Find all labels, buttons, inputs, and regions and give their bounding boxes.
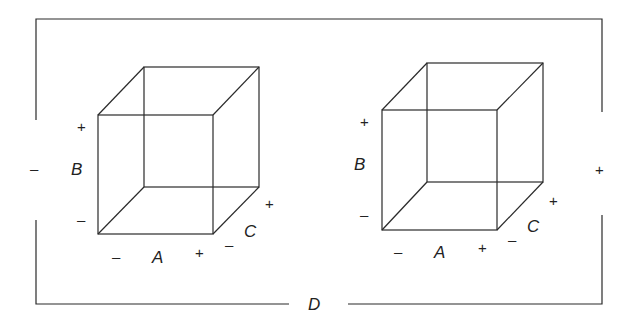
right-c-high-sign: + bbox=[549, 192, 558, 209]
cube-right bbox=[382, 63, 543, 230]
cube-left bbox=[98, 67, 259, 234]
factorial-diagram: D – + + B – – A + – C + + B – – A + – C … bbox=[0, 0, 634, 325]
right-a-low-sign: – bbox=[394, 243, 403, 260]
left-c-label: C bbox=[244, 222, 257, 241]
right-b-low-sign: – bbox=[360, 206, 369, 223]
left-c-low-sign: – bbox=[225, 236, 234, 253]
left-a-high-sign: + bbox=[195, 244, 204, 261]
right-a-high-sign: + bbox=[478, 239, 487, 256]
right-b-label: B bbox=[354, 155, 365, 174]
left-b-low-sign: – bbox=[77, 211, 86, 228]
left-b-label: B bbox=[71, 160, 82, 179]
factor-d-low-sign: – bbox=[30, 160, 39, 177]
right-a-label: A bbox=[433, 243, 445, 262]
right-b-high-sign: + bbox=[360, 113, 369, 130]
left-a-low-sign: – bbox=[112, 248, 121, 265]
factor-d-label: D bbox=[308, 295, 320, 314]
left-b-high-sign: + bbox=[77, 118, 86, 135]
right-c-label: C bbox=[527, 217, 540, 236]
left-a-label: A bbox=[151, 248, 163, 267]
right-c-low-sign: – bbox=[508, 231, 517, 248]
outer-bracket-d bbox=[36, 19, 602, 304]
factor-d-high-sign: + bbox=[595, 161, 604, 178]
left-c-high-sign: + bbox=[265, 195, 274, 212]
